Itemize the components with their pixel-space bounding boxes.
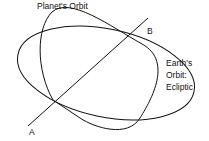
orbit-diagram: Planet's Orbit B Earth's Orbit: Ecliptic… bbox=[0, 0, 209, 141]
planet-orbit-path bbox=[40, 7, 158, 129]
line-of-nodes bbox=[28, 18, 148, 126]
planet-orbit-label: Planet's Orbit bbox=[37, 1, 88, 11]
point-a-label: A bbox=[29, 127, 35, 137]
earth-orbit-label-line3: Ecliptic bbox=[166, 82, 193, 92]
earth-orbit-label-line2: Orbit: bbox=[166, 70, 187, 80]
point-b-label: B bbox=[147, 26, 153, 36]
earth-orbit-label-line1: Earth's bbox=[166, 58, 192, 68]
